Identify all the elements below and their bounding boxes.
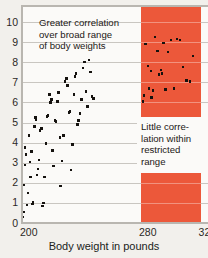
data-point xyxy=(182,66,184,68)
data-point xyxy=(65,77,67,79)
data-point xyxy=(26,204,28,206)
data-point xyxy=(86,105,88,107)
data-point xyxy=(59,185,61,187)
data-point xyxy=(41,205,43,207)
y-tick-label-3: 3 xyxy=(0,157,18,168)
data-point xyxy=(143,94,145,96)
gridline-band-y-9 xyxy=(141,42,201,43)
data-point xyxy=(83,61,85,63)
data-point xyxy=(74,75,76,77)
data-point xyxy=(150,96,152,98)
data-point xyxy=(59,136,61,138)
data-point xyxy=(150,70,152,72)
gridline-band-y-8 xyxy=(141,62,201,63)
data-point xyxy=(45,142,47,144)
data-point xyxy=(164,88,166,90)
data-point xyxy=(37,168,39,170)
y-tick-label-8: 8 xyxy=(0,57,18,68)
data-point xyxy=(152,89,154,91)
annotation-restricted-range-line-2: lation within xyxy=(141,133,208,145)
data-point xyxy=(156,50,158,52)
data-point xyxy=(69,110,71,112)
data-point xyxy=(75,72,77,74)
data-point xyxy=(38,159,40,161)
data-point xyxy=(80,98,82,100)
x-tick-label-200: 200 xyxy=(20,227,38,238)
data-point xyxy=(48,93,50,95)
data-point xyxy=(192,55,194,57)
data-point xyxy=(51,149,53,151)
y-tick-label-7: 7 xyxy=(0,77,18,88)
data-point xyxy=(148,87,150,89)
x-axis-title: Body weight in pounds xyxy=(0,240,208,252)
annotation-restricted-range: Little corre- lation within restricted r… xyxy=(141,121,208,167)
axis-bottom-rule xyxy=(21,222,208,224)
data-point xyxy=(144,43,146,45)
data-point xyxy=(82,67,84,69)
gridline-band-y-1 xyxy=(141,203,201,204)
y-tick-label-0: 0 xyxy=(0,218,18,229)
data-point xyxy=(154,36,156,38)
data-point xyxy=(76,123,78,125)
data-point xyxy=(71,143,73,145)
data-point xyxy=(85,90,87,92)
y-tick-label-5: 5 xyxy=(0,117,18,128)
data-point xyxy=(162,42,164,44)
data-point xyxy=(77,119,79,121)
data-point xyxy=(35,118,37,120)
gridline-band-y-6 xyxy=(141,102,201,103)
annotation-restricted-range-line-3: restricted xyxy=(141,144,208,156)
annotation-broad-range-line-1: Greater correlation xyxy=(39,17,134,29)
data-point xyxy=(50,98,52,100)
y-tick-label-1: 1 xyxy=(0,197,18,208)
scatter-chart-figure: 012345678910 200280320 Greater correlati… xyxy=(0,0,208,258)
y-tick-label-4: 4 xyxy=(0,137,18,148)
data-point xyxy=(27,192,29,194)
data-point xyxy=(56,100,58,102)
y-tick-label-6: 6 xyxy=(0,97,18,108)
axis-top-rule xyxy=(22,5,208,7)
x-tick-label-320: 320 xyxy=(199,227,208,238)
data-point xyxy=(142,100,144,102)
data-point xyxy=(57,91,59,93)
data-point xyxy=(30,150,32,152)
annotation-restricted-range-line-4: range xyxy=(141,156,208,168)
y-tick-label-10: 10 xyxy=(0,17,18,28)
data-point xyxy=(88,59,90,61)
data-point xyxy=(25,153,27,155)
y-tick-label-2: 2 xyxy=(0,177,18,188)
data-point xyxy=(55,120,57,122)
data-point xyxy=(185,79,187,81)
data-point xyxy=(24,164,26,166)
data-point xyxy=(61,160,63,162)
data-point xyxy=(43,176,45,178)
data-point xyxy=(73,93,75,95)
annotation-broad-range-line-2: over broad range xyxy=(39,29,134,41)
gridline-band-y-10 xyxy=(141,22,201,23)
data-point xyxy=(32,201,34,203)
data-point xyxy=(29,176,31,178)
data-point xyxy=(47,114,49,116)
data-point xyxy=(66,84,68,86)
y-axis-tick-labels: 012345678910 xyxy=(0,0,20,258)
gridline-band-y-7 xyxy=(141,82,201,83)
data-point xyxy=(52,165,54,167)
data-point xyxy=(36,174,38,176)
data-point xyxy=(33,125,35,127)
gridline-band-y-2 xyxy=(141,183,201,184)
x-tick-label-280: 280 xyxy=(139,227,157,238)
annotation-restricted-range-line-1: Little corre- xyxy=(141,121,208,133)
data-point xyxy=(79,112,81,114)
data-point xyxy=(23,211,25,213)
data-point xyxy=(49,101,51,103)
data-point xyxy=(28,134,30,136)
data-point xyxy=(147,65,149,67)
data-point xyxy=(189,80,191,82)
data-point xyxy=(167,51,169,53)
data-point xyxy=(179,39,181,41)
data-point xyxy=(64,80,66,82)
data-point xyxy=(29,161,31,163)
data-point xyxy=(70,169,72,171)
data-point xyxy=(40,127,42,129)
data-point xyxy=(173,87,175,89)
